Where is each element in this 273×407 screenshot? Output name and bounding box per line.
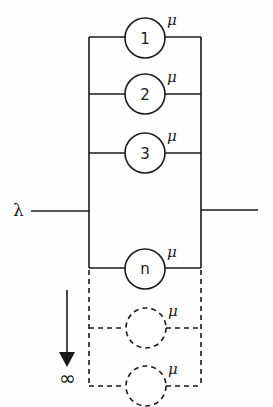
server-3: 3 μ <box>89 127 201 173</box>
server-label: 1 <box>140 30 150 48</box>
server-label: 2 <box>140 86 150 104</box>
server-dashed-1: μ <box>89 302 201 348</box>
diagram-svg: λ 1 μ 2 μ 3 μ <box>0 0 273 407</box>
server-circle <box>126 308 166 348</box>
down-arrow-icon <box>59 290 75 367</box>
server-2: 2 μ <box>89 68 201 114</box>
mu-label: μ <box>168 360 178 378</box>
server-n: n μ <box>89 243 201 289</box>
server-label: n <box>140 260 150 278</box>
mu-label: μ <box>167 243 177 261</box>
infinity-label: ∞ <box>59 366 76 390</box>
mu-label: μ <box>168 302 178 320</box>
server-label: 3 <box>140 145 150 163</box>
server-circle <box>126 366 166 406</box>
mu-label: μ <box>167 11 177 29</box>
lambda-label: λ <box>13 200 24 220</box>
server-dashed-2: μ <box>89 360 201 406</box>
queueing-diagram: λ 1 μ 2 μ 3 μ <box>0 0 273 407</box>
server-1: 1 μ <box>89 11 201 58</box>
mu-label: μ <box>167 127 177 145</box>
mu-label: μ <box>167 68 177 86</box>
